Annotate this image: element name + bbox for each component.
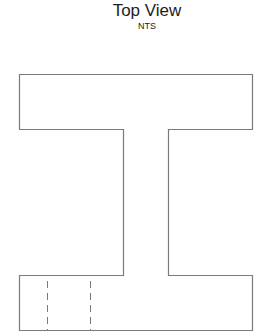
i-section-drawing [0, 0, 264, 333]
section-outline [20, 75, 253, 331]
